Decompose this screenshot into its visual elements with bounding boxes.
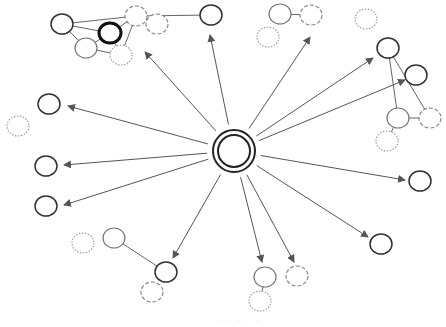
node-l-a [38, 94, 60, 114]
arrow-5 [68, 106, 208, 144]
node-r-b [405, 65, 427, 85]
node-r-e [376, 131, 398, 151]
node-b-a [103, 228, 125, 248]
node-b-c [155, 262, 177, 282]
arrow-10 [173, 174, 221, 258]
node-tl-b [99, 23, 121, 43]
node-l-b [7, 116, 29, 136]
arrow-2 [249, 37, 310, 129]
node-tl-f [110, 45, 132, 65]
node-rr-b [370, 234, 392, 254]
arrow-0 [145, 52, 216, 131]
arrow-1 [210, 35, 229, 125]
node-tl-d [125, 6, 147, 26]
node-l-c [35, 156, 57, 176]
node-rr-a [409, 171, 431, 191]
hub-node [213, 130, 255, 172]
arrow-9 [257, 166, 368, 237]
arrow-3 [256, 58, 373, 136]
network-diagram [0, 0, 446, 327]
node-b-d [141, 282, 163, 302]
node-r-a [377, 38, 399, 58]
arrow-7 [64, 159, 208, 205]
arrow-8 [261, 156, 405, 180]
caption-fragment: · · · · · [200, 316, 280, 327]
node-bm-b [286, 266, 308, 286]
hub-inner-ring [218, 135, 250, 167]
arrow-11 [241, 177, 262, 262]
node-t-g [200, 5, 222, 25]
node-tl-e [146, 14, 168, 34]
node-tr-b [300, 5, 322, 25]
node-tr-d [355, 9, 377, 29]
node-b-b [72, 233, 94, 253]
node-bm-c [249, 291, 271, 311]
node-tr-a [269, 4, 291, 24]
node-r-d [419, 108, 441, 128]
arrow-12 [247, 175, 294, 262]
arrow-6 [64, 153, 207, 165]
node-l-d [35, 196, 57, 216]
node-r-c [387, 108, 409, 128]
node-tl-a [51, 14, 73, 34]
node-tr-c [257, 27, 279, 47]
node-bm-a [254, 267, 276, 287]
node-tl-c [75, 38, 97, 58]
